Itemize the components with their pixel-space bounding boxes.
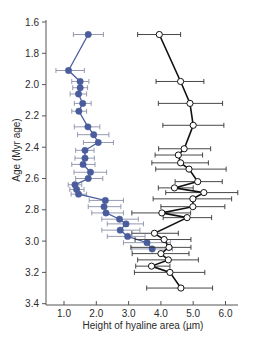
error-bars: [56, 32, 173, 251]
y-tick-label: 2.0: [25, 79, 39, 90]
data-point-marker: [91, 131, 97, 137]
data-point-marker: [148, 263, 154, 269]
plot-area: [56, 31, 238, 291]
x-tick-label: 6.0: [219, 308, 233, 319]
x-axis-ticks: 1.02.03.04.05.06.0: [57, 301, 233, 319]
data-point-marker: [178, 285, 184, 291]
data-point-marker: [161, 236, 167, 242]
data-point-marker: [80, 100, 86, 106]
y-tick-label: 1.8: [25, 48, 39, 59]
data-point-marker: [181, 146, 187, 152]
data-point-marker: [76, 108, 82, 114]
data-point-marker: [165, 257, 171, 263]
series-open-black: [131, 31, 238, 291]
x-axis-label: Height of hyaline area (µm): [83, 320, 204, 331]
error-bars: [131, 32, 238, 291]
y-tick-label: 1.6: [25, 17, 39, 28]
data-point-marker: [95, 139, 101, 145]
y-tick-label: 2.8: [25, 204, 39, 215]
data-point-marker: [201, 189, 207, 195]
data-point-marker: [187, 100, 193, 106]
data-point-marker: [85, 175, 91, 181]
y-tick-label: 3.2: [25, 267, 39, 278]
data-point-marker: [75, 191, 81, 197]
data-point-marker: [190, 204, 196, 210]
data-point-marker: [80, 161, 86, 167]
data-point-marker: [85, 31, 91, 37]
data-point-marker: [171, 185, 177, 191]
data-point-marker: [158, 251, 164, 257]
series-line: [69, 35, 153, 249]
x-tick-label: 5.0: [186, 308, 200, 319]
data-point-marker: [167, 269, 173, 275]
x-tick-label: 3.0: [122, 308, 136, 319]
axes: 1.61.82.02.22.42.62.83.03.23.4 1.02.03.0…: [11, 17, 238, 332]
data-point-marker: [124, 233, 130, 239]
y-tick-label: 3.0: [25, 236, 39, 247]
y-tick-label: 2.2: [25, 110, 39, 121]
data-point-marker: [116, 216, 122, 222]
data-point-marker: [102, 197, 108, 203]
data-point-marker: [87, 169, 93, 175]
x-tick-label: 4.0: [154, 308, 168, 319]
data-point-marker: [117, 227, 123, 233]
data-point-marker: [166, 244, 172, 250]
y-axis-ticks: 1.61.82.02.22.42.62.83.03.23.4: [25, 17, 46, 310]
data-point-marker: [85, 124, 91, 130]
y-tick-label: 3.4: [25, 298, 39, 309]
data-point-marker: [123, 221, 129, 227]
data-point-marker: [75, 91, 81, 97]
data-point-marker: [101, 203, 107, 209]
data-point-marker: [190, 122, 196, 128]
data-point-marker: [149, 246, 155, 252]
y-tick-label: 2.6: [25, 173, 39, 184]
data-point-marker: [159, 210, 165, 216]
data-point-marker: [82, 147, 88, 153]
data-point-marker: [82, 155, 88, 161]
series-filled-blue: [56, 31, 173, 252]
data-point-marker: [156, 31, 162, 37]
y-axis-label: Age (Myr age): [11, 118, 22, 181]
data-point-marker: [175, 152, 181, 158]
data-point-marker: [65, 67, 71, 73]
y-tick-label: 2.4: [25, 142, 39, 153]
data-point-marker: [178, 160, 184, 166]
x-tick-label: 1.0: [57, 308, 71, 319]
data-point-marker: [144, 239, 150, 245]
data-point-marker: [184, 215, 190, 221]
data-point-marker: [178, 78, 184, 84]
hyaline-height-vs-age-chart: 1.61.82.02.22.42.62.83.03.23.4 1.02.03.0…: [0, 0, 254, 345]
data-point-marker: [151, 230, 157, 236]
data-point-marker: [77, 78, 83, 84]
data-point-marker: [77, 85, 83, 91]
data-point-marker: [190, 196, 196, 202]
data-point-marker: [195, 179, 201, 185]
data-point-marker: [103, 210, 109, 216]
data-point-marker: [186, 166, 192, 172]
x-tick-label: 2.0: [89, 308, 103, 319]
